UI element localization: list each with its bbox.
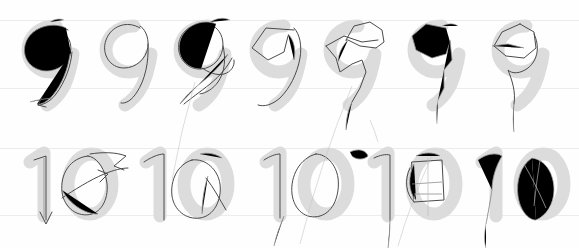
glyph-cell-9-3[interactable]: 9 (164, 8, 240, 128)
glyph-canvas (90, 8, 164, 128)
glyph-cell-9-1[interactable]: 9 (12, 8, 90, 128)
glyph-cell-9-5[interactable]: 9 (314, 8, 398, 128)
glyph-label: 9 (164, 128, 165, 129)
glyph-canvas (250, 138, 358, 248)
glyph-label: 9 (12, 128, 13, 129)
glyph-canvas (398, 8, 482, 128)
ghost-template-9 (106, 26, 151, 105)
glyph-canvas (314, 8, 398, 128)
ink-stroke-2 (388, 220, 390, 248)
glyph-label: 9 (398, 128, 399, 129)
ghost-template-9 (256, 26, 301, 105)
glyph-canvas (240, 8, 314, 128)
ghost-template-9 (498, 26, 543, 105)
ink-stroke-3 (485, 224, 487, 248)
glyph-cell-10-2[interactable]: 10 (130, 138, 240, 248)
glyph-canvas (358, 138, 468, 248)
glyph-canvas (482, 8, 572, 128)
ink-stroke-5 (338, 40, 348, 62)
ink-stroke-7 (210, 18, 230, 22)
glyph-cell-9-2[interactable]: 9 (90, 8, 164, 128)
glyph-label: 9 (90, 128, 91, 129)
glyph-label: 9 (482, 128, 483, 129)
practice-sheet: 99999991010101010 (0, 0, 579, 248)
glyph-canvas (164, 8, 240, 128)
glyph-label: 9 (314, 128, 315, 129)
glyph-cell-10-3[interactable]: 10 (250, 138, 358, 248)
glyph-cell-10-5[interactable]: 10 (466, 138, 572, 248)
glyph-cell-10-1[interactable]: 10 (14, 138, 126, 248)
glyph-canvas (12, 8, 90, 128)
ink-stroke-4 (513, 104, 514, 132)
ghost-template-10 (266, 153, 348, 216)
glyph-canvas (14, 138, 126, 248)
glyph-cell-9-4[interactable]: 9 (240, 8, 314, 128)
ghost-template-10 (30, 153, 112, 216)
glyph-canvas (130, 138, 240, 248)
ink-strokes-faint-outline (478, 154, 554, 248)
glyph-cell-10-4[interactable]: 10 (358, 138, 468, 248)
glyph-cell-9-6[interactable]: 9 (398, 8, 482, 128)
ink-stroke-3 (288, 34, 295, 60)
glyph-canvas (466, 138, 572, 248)
ghost-template-9 (330, 26, 375, 105)
glyph-label: 9 (240, 128, 241, 129)
glyph-cell-9-7[interactable]: 9 (482, 8, 572, 128)
